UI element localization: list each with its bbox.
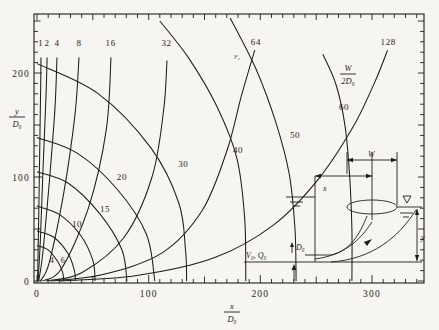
plot-layer: 0100200300010020012481632641284610152030… [12, 14, 424, 299]
svg-text:D₀: D₀ [11, 119, 21, 129]
figure: 0100200300010020012481632641284610152030… [0, 0, 439, 330]
x-tick-label: 200 [251, 289, 269, 299]
curve-label-froude-number-F0-1: 1 [38, 38, 43, 48]
curve-label-boil-half-width-W-2D0-10: 10 [72, 219, 82, 229]
y-tick-label: 100 [12, 173, 30, 183]
y-tick-label: 200 [12, 69, 30, 79]
x-tick-label: 0 [34, 289, 40, 299]
svg-text:x: x [229, 301, 234, 311]
curve-froude-number-F0-64 [50, 50, 254, 281]
curve-label-froude-number-F0-2: 2 [45, 38, 50, 48]
inset-y-label: y [420, 233, 425, 242]
arrow-up-icon [415, 209, 419, 215]
arrow-right-icon [391, 158, 397, 162]
svg-text:D₀: D₀ [226, 314, 236, 324]
curve-boil-half-width-W-2D0-30 [37, 64, 187, 281]
curve-froude-number-F0-128 [59, 50, 387, 281]
curve-label-froude-number-F0-16: 16 [106, 38, 116, 48]
curve-label-boil-half-width-W-2D0-6: 6 [61, 256, 66, 265]
x-axis-title: x D₀ [224, 301, 240, 324]
arrow-left-icon [315, 174, 321, 178]
arrow-right-icon [366, 174, 372, 178]
curve-label-boil-half-width-W-2D0-15: 15 [100, 204, 110, 214]
curve-label-boil-half-width-W-2D0-4: 4 [50, 256, 55, 265]
curve-label-boil-half-width-W-2D0-30: 30 [178, 159, 188, 169]
inset-jet-outer [331, 210, 416, 262]
arrow-up-icon [290, 242, 294, 247]
curve-label-boil-half-width-W-2D0-40: 40 [233, 145, 243, 155]
svg-text:y: y [14, 106, 19, 116]
curve-label-froude-number-F0-128: 128 [381, 37, 396, 47]
inset-x-label: x [322, 184, 327, 193]
inset-sketch: x W y D₀ V₀, Q₀ [244, 150, 425, 281]
curve-label-boil-half-width-W-2D0-60: 60 [339, 102, 349, 112]
chart: 0100200300010020012481632641284610152030… [0, 0, 439, 330]
curve-label-froude-number-F0-32: 32 [161, 38, 171, 48]
svg-text:W: W [344, 63, 352, 73]
inset-vq-label: V₀, Q₀ [246, 251, 266, 260]
curve-froude-number-F0-4 [39, 57, 57, 281]
x-tick-label: 100 [140, 289, 158, 299]
curve-label-froude-number-F0-4: 4 [54, 38, 59, 48]
y-axis-title: y D₀ [9, 106, 25, 129]
curve-label-froude-number-F0-8: 8 [76, 38, 81, 48]
curve-label-boil-half-width-W-2D0-20: 20 [117, 172, 127, 182]
y-tick-label: 0 [24, 277, 30, 287]
arrow-down-icon [415, 255, 419, 261]
x-tick-label: 300 [363, 289, 381, 299]
svg-text:2D₀: 2D₀ [341, 76, 354, 86]
boil-width-family-label: W 2D₀ [340, 63, 356, 86]
nabla-icon [403, 196, 411, 203]
inset-jet-mid [315, 222, 372, 259]
curve-label-boil-half-width-W-2D0-50: 50 [290, 130, 300, 140]
curve-label-froude-number-F0-64: 64 [251, 37, 261, 47]
froude-family-label: F₀ [233, 53, 240, 60]
inset-d0-label: D₀ [295, 243, 305, 252]
jet-arrow-icon [364, 239, 372, 246]
